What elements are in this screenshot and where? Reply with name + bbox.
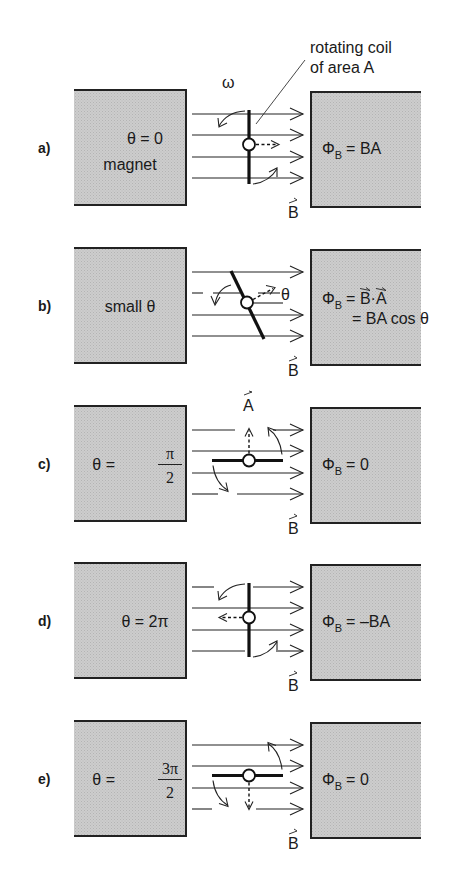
- rotation-arrow-upper: [219, 111, 245, 126]
- angle-fraction-denominator: 2: [166, 469, 174, 486]
- panel-e: e)θ =3π2ΦB= 0B: [38, 721, 421, 852]
- field-vector-label: B: [288, 829, 299, 852]
- angle-fraction-numerator: π: [166, 445, 174, 462]
- field-vector-label: B: [288, 514, 299, 537]
- b-vector-arrow: [289, 671, 297, 676]
- flux-symbol: Φ: [322, 771, 335, 788]
- angle-text: θ =: [92, 771, 115, 788]
- a-symbol: A: [243, 397, 254, 414]
- flux-subscript: B: [335, 149, 342, 161]
- area-normal-vector: θ: [253, 286, 290, 303]
- panel-b: b)small θΦB= B·A= BA cos θBθ: [38, 248, 429, 379]
- b-vector-arrow: [289, 198, 297, 203]
- rotation-arrow-lower: [253, 169, 277, 184]
- b-symbol: B: [288, 204, 299, 221]
- rotation-arrow-lower: [213, 466, 228, 491]
- flux-value: = B·A: [346, 290, 387, 307]
- b-symbol: B: [288, 362, 299, 379]
- flux-symbol: Φ: [322, 613, 335, 630]
- area-normal-vector: A: [243, 391, 254, 454]
- panel-label: c): [38, 456, 50, 472]
- rotation-axis: [241, 297, 253, 309]
- flux-value-expanded: = BA cos θ: [352, 310, 429, 327]
- b-vector-arrow: [289, 514, 297, 519]
- rotating-coil: [243, 583, 255, 657]
- flux-symbol: Φ: [322, 456, 335, 473]
- theta-angle-label: θ: [281, 286, 290, 303]
- rotation-arrow-lower: [253, 642, 277, 657]
- b-symbol: B: [288, 677, 299, 694]
- rotation-axis: [243, 770, 255, 782]
- rotation-direction-arrows: [211, 285, 231, 305]
- rotation-arrowhead: [269, 641, 277, 650]
- panel-a: a)θ = 0magnetΦB= BABω: [38, 74, 421, 221]
- omega-label: ω: [222, 74, 235, 91]
- flux-symbol: Φ: [322, 140, 335, 157]
- left-magnet: [74, 406, 186, 521]
- area-normal-vector: [256, 141, 279, 149]
- panel-label: e): [38, 771, 50, 787]
- flux-symbol: Φ: [322, 290, 335, 307]
- flux-subscript: B: [335, 622, 342, 634]
- rotation-arrowhead: [218, 118, 227, 127]
- area-normal-vector: [245, 783, 253, 810]
- rotating-coil: [231, 271, 264, 339]
- flux-value: = BA: [346, 140, 381, 157]
- rotation-arrowhead: [218, 591, 227, 600]
- panel-c: c)θ =π2ΦB= 0BA: [38, 391, 421, 537]
- angle-text: θ = 2π: [121, 613, 168, 630]
- b-symbol: B: [288, 520, 299, 537]
- rotating-coil: [212, 455, 283, 467]
- rotation-arrow-upper: [219, 584, 245, 599]
- panel-label: a): [38, 140, 50, 156]
- field-vector-label: B: [288, 356, 299, 379]
- rotation-axis: [243, 612, 255, 624]
- flux-value: = 0: [346, 456, 369, 473]
- angle-text: small θ: [105, 298, 156, 315]
- panel-label: d): [38, 613, 51, 629]
- rotation-arrowhead: [269, 168, 277, 177]
- left-magnet: [74, 721, 186, 836]
- rotation-axis: [243, 139, 255, 151]
- panel-d: d)θ = 2πΦB= –BAB: [38, 563, 421, 694]
- b-vector-arrow: [289, 829, 297, 834]
- left-magnet: [74, 90, 186, 205]
- rotating-coil: [212, 770, 283, 782]
- flux-subscript: B: [335, 780, 342, 792]
- magnet-label: magnet: [103, 156, 157, 173]
- angle-fraction-denominator: 2: [166, 784, 174, 801]
- field-vector-label: B: [288, 198, 299, 221]
- rotating-coil: [243, 110, 255, 184]
- flux-subscript: B: [335, 299, 342, 311]
- right-magnet: [311, 250, 421, 365]
- rotation-arrow-lower: [213, 781, 228, 806]
- callout-line-1: rotating coil: [310, 39, 392, 56]
- a-vector-arrow: [244, 391, 252, 395]
- panel-label: b): [38, 298, 51, 314]
- b-vector-arrow: [289, 356, 297, 361]
- angle-text: θ = 0: [127, 130, 163, 147]
- angle-fraction-numerator: 3π: [162, 760, 178, 777]
- flux-value: = 0: [346, 771, 369, 788]
- angle-text: θ =: [92, 456, 115, 473]
- area-normal-vector: [219, 614, 242, 622]
- flux-value: = –BA: [346, 613, 390, 630]
- rotation-axis: [243, 455, 255, 467]
- field-vector-label: B: [288, 671, 299, 694]
- rotating-coil-flux-diagram: rotating coil of area A a)θ = 0magnetΦB=…: [0, 0, 467, 882]
- flux-subscript: B: [335, 465, 342, 477]
- callout-line-2: of area A: [310, 59, 374, 76]
- b-symbol: B: [288, 835, 299, 852]
